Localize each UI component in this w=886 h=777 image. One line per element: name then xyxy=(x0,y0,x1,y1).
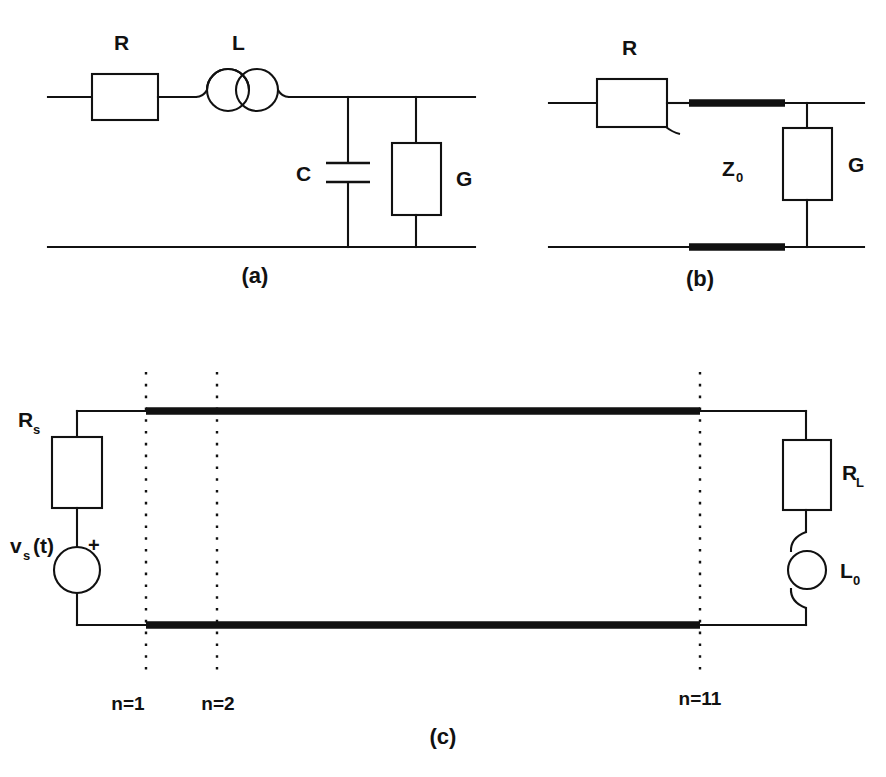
panel-a-conductance-G-box xyxy=(392,143,441,215)
panel-c-label-vs-subscript: s xyxy=(23,548,30,563)
panel-a-label-L: L xyxy=(232,31,245,54)
panel-b-label-Z0: Z xyxy=(722,157,735,180)
panel-c-label-L0-subscript: 0 xyxy=(853,573,860,588)
panel-b-caption: (b) xyxy=(686,266,714,291)
panel-c-inductor-lead-top xyxy=(791,532,806,552)
panel-a-label-G: G xyxy=(456,167,472,190)
panel-a-inductor-circle-2 xyxy=(236,69,278,111)
panel-b-conductance-G-box xyxy=(783,128,832,200)
panel-b-label-Z0-subscript: 0 xyxy=(736,170,743,185)
panel-b-resistor-R-box xyxy=(597,79,667,127)
panel-a-inductor-loop-1 xyxy=(207,69,249,90)
panel-b: R Z 0 G (b) xyxy=(549,36,864,291)
figure-root: R L C G (a) R xyxy=(0,0,886,777)
panel-b-stray-mark xyxy=(666,127,680,134)
panel-a-label-R: R xyxy=(114,31,129,54)
panel-a-resistor-R-box xyxy=(92,74,158,120)
panel-c-source-resistor-Rs-box xyxy=(52,437,102,508)
panel-c-label-RL: R xyxy=(842,461,857,484)
panel-c-label-Rs-subscript: s xyxy=(33,422,40,437)
panel-c-label-RL-subscript: L xyxy=(856,475,864,490)
panel-c-load-resistor-RL-box xyxy=(783,440,831,510)
panel-a-caption: (a) xyxy=(242,263,269,288)
panel-c-inductor-lead-bottom xyxy=(791,588,806,608)
panel-c: R s v s (t) + R L L 0 n=1 n=2 n=11 (c) xyxy=(10,372,864,749)
panel-a-label-C: C xyxy=(296,162,311,185)
panel-a-inductor-lead-out xyxy=(278,90,289,97)
panel-b-label-R: R xyxy=(622,36,637,59)
panel-c-label-Rs: R xyxy=(18,408,33,431)
panel-c-node-label-n1: n=1 xyxy=(111,693,145,714)
panel-c-label-polarity-plus: + xyxy=(88,534,100,556)
panel-a: R L C G (a) xyxy=(48,31,475,288)
panel-c-caption: (c) xyxy=(430,724,457,749)
panel-c-node-label-n2: n=2 xyxy=(201,693,234,714)
panel-a-inductor-lead-in xyxy=(196,90,207,97)
panel-c-label-L0: L xyxy=(840,559,853,582)
panel-c-label-vs-suffix: (t) xyxy=(33,534,54,557)
panel-b-label-G: G xyxy=(848,153,864,176)
panel-c-inductor-loop xyxy=(788,551,826,589)
panel-c-node-label-n11: n=11 xyxy=(679,688,722,709)
panel-c-label-vs: v xyxy=(10,534,22,557)
circuit-diagram-svg: R L C G (a) R xyxy=(0,0,886,777)
